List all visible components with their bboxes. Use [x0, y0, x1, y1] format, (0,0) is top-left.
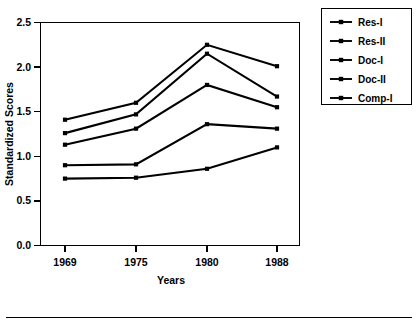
- data-point: [205, 167, 209, 171]
- series-line: [65, 147, 277, 178]
- legend-label: Res-I: [358, 17, 383, 28]
- legend-sample-marker: [339, 20, 343, 24]
- y-axis-title: Standardized Scores: [3, 82, 15, 186]
- data-point: [134, 162, 138, 166]
- data-point: [275, 127, 279, 131]
- legend-label: Doc-II: [358, 74, 386, 85]
- data-point: [275, 94, 279, 98]
- legend-sample-marker: [339, 77, 343, 81]
- series-line: [65, 54, 277, 133]
- series-doc-i: [63, 83, 279, 147]
- line-chart: 2.5 2.0 1.5 1.0 0.5 0.0 Standardized Sco…: [0, 0, 418, 328]
- y-tick-label: 0.0: [16, 239, 31, 251]
- data-point: [134, 127, 138, 131]
- plot-frame: [41, 23, 300, 246]
- legend-sample-marker: [339, 39, 343, 43]
- chart-figure: 2.5 2.0 1.5 1.0 0.5 0.0 Standardized Sco…: [0, 0, 418, 328]
- y-tick-label: 2.0: [16, 61, 31, 73]
- data-point: [63, 177, 67, 181]
- y-axis-ticks: [34, 23, 41, 246]
- data-point: [134, 112, 138, 116]
- y-tick-label: 2.5: [16, 16, 31, 28]
- data-point: [205, 122, 209, 126]
- legend-label: Res-II: [358, 36, 385, 47]
- x-axis-title: Years: [157, 274, 185, 286]
- x-axis-ticks: [65, 246, 277, 253]
- data-point: [275, 64, 279, 68]
- series-line: [65, 124, 277, 165]
- x-tick-label: 1980: [195, 256, 219, 268]
- data-point: [205, 83, 209, 87]
- y-axis-tick-labels: 2.5 2.0 1.5 1.0 0.5 0.0: [16, 16, 31, 251]
- series-line: [65, 45, 277, 120]
- data-point: [205, 43, 209, 47]
- data-point: [63, 143, 67, 147]
- data-point: [134, 101, 138, 105]
- data-point: [63, 131, 67, 135]
- series-doc-ii: [63, 122, 279, 167]
- x-axis-tick-labels: 1969 1975 1980 1988: [53, 256, 289, 268]
- data-point: [63, 163, 67, 167]
- data-point: [63, 118, 67, 122]
- x-tick-label: 1975: [124, 256, 148, 268]
- series-line: [65, 85, 277, 145]
- x-tick-label: 1988: [265, 256, 289, 268]
- legend-sample-marker: [339, 96, 343, 100]
- legend-label: Doc-I: [358, 55, 383, 66]
- y-tick-label: 1.5: [16, 105, 31, 117]
- data-series-layer: [63, 43, 279, 181]
- series-res-ii: [63, 52, 279, 136]
- series-comp-i: [63, 145, 279, 180]
- legend-sample-marker: [339, 58, 343, 62]
- x-tick-label: 1969: [53, 256, 77, 268]
- data-point: [134, 176, 138, 180]
- chart-legend: Res-IRes-IIDoc-IDoc-IIComp-I: [322, 9, 412, 105]
- y-tick-label: 0.5: [16, 194, 31, 206]
- legend-label: Comp-I: [358, 93, 393, 104]
- y-tick-label: 1.0: [16, 150, 31, 162]
- series-res-i: [63, 43, 279, 122]
- data-point: [205, 52, 209, 56]
- data-point: [275, 105, 279, 109]
- data-point: [275, 145, 279, 149]
